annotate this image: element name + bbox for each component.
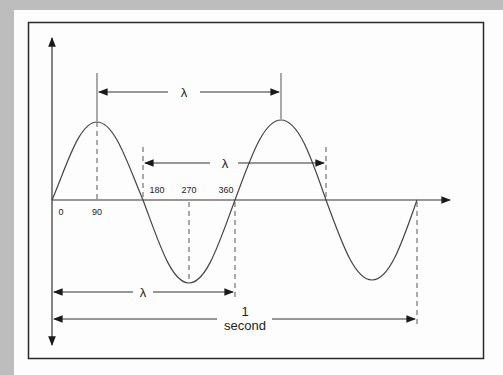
degree-label-90: 90	[92, 207, 102, 217]
period-label-unit: second	[224, 318, 266, 333]
degree-label-360: 360	[218, 185, 233, 195]
wavelength-label-bottom: λ	[140, 285, 147, 300]
sine-wave-diagram: λ λ λ 1 second 0 90 180 270 360	[0, 0, 503, 375]
wavelength-label-mid: λ	[222, 156, 229, 171]
period-label-number: 1	[241, 304, 248, 319]
degree-label-270: 270	[181, 185, 196, 195]
wavelength-label-top: λ	[181, 85, 188, 100]
diagram-frame	[29, 23, 484, 359]
degree-label-180: 180	[149, 185, 164, 195]
degree-label-0: 0	[58, 207, 63, 217]
